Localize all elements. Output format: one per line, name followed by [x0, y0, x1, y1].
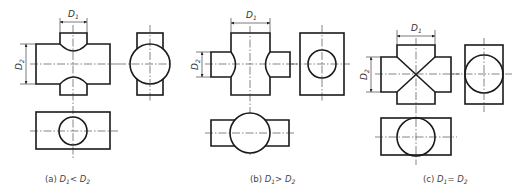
- dim-label-d2: D2: [14, 59, 25, 70]
- dim-label-d2: D2: [359, 69, 370, 80]
- figure-a-front-view: D1 D2: [14, 9, 118, 160]
- intersecting-cylinders-diagram: D1 D2 (a) D1< D2: [0, 0, 520, 193]
- figure-a-side-view: [118, 25, 170, 102]
- figure-a-top-view: [30, 112, 118, 149]
- figure-b-top-view: [205, 113, 295, 153]
- caption-b: (b) D1> D2: [250, 174, 295, 185]
- caption-a: (a) D1< D2: [45, 174, 90, 185]
- figure-c-side-view: [451, 38, 512, 112]
- figure-a: D1 D2 (a) D1< D2: [14, 9, 170, 185]
- caption-c: (c) D1= D2: [423, 174, 468, 185]
- dim-label-d2: D2: [190, 59, 201, 70]
- figure-b: D1 D2 (b) D1> D2: [190, 10, 350, 185]
- dim-label-d1: D1: [246, 10, 257, 21]
- dim-label-d1: D1: [411, 23, 422, 34]
- figure-c: D1 D2 (c) D1= D2: [359, 23, 512, 185]
- figure-c-front-view: D1 D2: [359, 23, 460, 165]
- dim-label-d1: D1: [68, 9, 79, 20]
- figure-b-side-view: [290, 25, 350, 102]
